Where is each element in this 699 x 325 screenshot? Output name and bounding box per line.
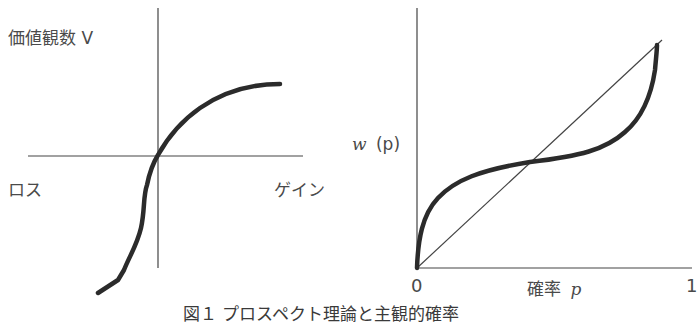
value-function-curve [98,84,280,293]
probability-label-text: 確率 [527,279,561,299]
wp-label-p: (p) [376,134,400,154]
gain-label: ゲイン [274,176,325,201]
wp-label: w (p) [352,134,400,154]
figure-caption: 図１ プロスペクト理論と主観的確率 [183,300,459,325]
loss-label: ロス [8,176,42,201]
wp-label-w: w [352,134,367,154]
x-max-label: 1 [686,275,697,296]
diagonal-reference-line [417,40,662,268]
x-min-label: 0 [411,275,422,296]
probability-label-var: p [570,279,581,299]
value-function-label: 価値観数 V [8,24,93,49]
probability-label: 確率 p [527,275,581,300]
